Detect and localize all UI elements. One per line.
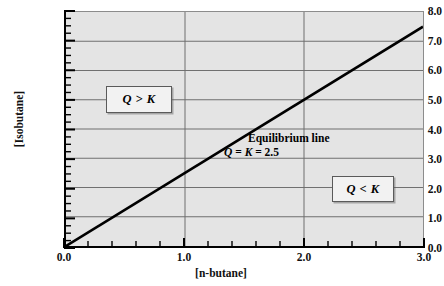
- ytick-label-2: 2.0: [384, 183, 442, 195]
- y-axis-title: [Isobutane]: [13, 39, 25, 199]
- ytick-label-5: 5.0: [384, 94, 442, 106]
- xtick-label-2: 2.0: [284, 251, 324, 263]
- ytick-label-6: 6.0: [384, 64, 442, 76]
- equilibrium-line: [66, 27, 423, 246]
- equilibrium-value-label: Q = K = 2.5: [224, 146, 279, 158]
- annotation-q-greater-text: Q > K: [122, 92, 155, 107]
- equilibrium-line-series: [66, 12, 423, 246]
- equilibrium-equals-1: =: [232, 146, 244, 158]
- annotation-q-less-text: Q < K: [346, 182, 379, 197]
- equilibrium-equals-2: =: [252, 146, 264, 158]
- plot-area: Q > K Q < K Equilibrium line Q = K = 2.5: [64, 11, 424, 248]
- equilibrium-value-number: 2.5: [265, 146, 279, 158]
- xtick-label-3: 3.0: [404, 251, 444, 263]
- ytick-label-3: 3.0: [384, 153, 442, 165]
- ytick-label-1: 1.0: [384, 212, 442, 224]
- xtick-label-0: 0.0: [44, 251, 84, 263]
- equilibrium-line-label: Equilibrium line: [248, 132, 329, 144]
- xtick-label-1: 1.0: [164, 251, 204, 263]
- annotation-q-greater-than-k: Q > K: [106, 86, 172, 113]
- x-axis-title: [n-butane]: [0, 267, 442, 279]
- ytick-label-8: 8.0: [384, 5, 442, 17]
- ytick-label-7: 7.0: [384, 35, 442, 47]
- ytick-label-4: 4.0: [384, 124, 442, 136]
